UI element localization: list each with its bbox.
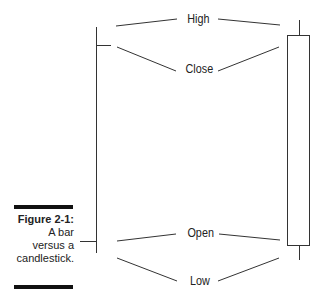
close-label: Close bbox=[186, 62, 214, 76]
open-label: Open bbox=[187, 226, 213, 240]
close-leader-left bbox=[117, 47, 176, 71]
open-leader-right bbox=[219, 234, 280, 240]
low-leader-left bbox=[117, 258, 177, 281]
low-leader-right bbox=[218, 258, 279, 281]
high-label: High bbox=[187, 12, 209, 26]
bar-vs-candlestick-diagram bbox=[0, 0, 325, 302]
close-leader-right bbox=[218, 47, 279, 71]
high-leader-left bbox=[116, 19, 177, 26]
open-leader-left bbox=[117, 234, 176, 241]
high-leader-right bbox=[218, 19, 280, 25]
low-label: Low bbox=[190, 274, 210, 288]
candle-body bbox=[288, 36, 310, 246]
